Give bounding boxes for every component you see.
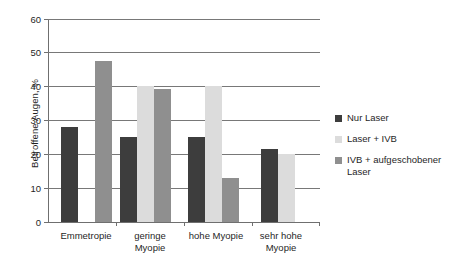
y-tick-mark-0: [44, 222, 48, 223]
gridline-60: 60: [48, 19, 320, 20]
x-category-label-geringe-myopie-line2: Myopie: [106, 242, 194, 254]
y-tick-mark-50: [44, 52, 48, 53]
y-tick-label-60: 60: [30, 14, 41, 25]
y-tick-label-30: 30: [30, 115, 41, 126]
y-tick-mark-40: [44, 86, 48, 87]
y-tick-mark-30: [44, 120, 48, 121]
gridline-40: 40: [48, 86, 320, 87]
y-axis-line: [48, 19, 49, 223]
gridline-30: 30: [48, 120, 320, 121]
x-tick-3: [252, 222, 253, 226]
y-tick-label-0: 0: [36, 217, 41, 228]
bar-hohe-myopie-laser-ivb: [205, 86, 222, 222]
legend-label-ivb-aufgeschobener-laser-line1: IVB + aufgeschobener: [347, 154, 441, 165]
bar-emmetropie-ivb-aufgeschobener-laser: [95, 61, 112, 223]
bar-hohe-myopie-ivb-aufgeschobener-laser: [222, 178, 239, 222]
bar-geringe-myopie-laser-ivb: [137, 86, 154, 222]
legend-swatch-laser-ivb-icon: [335, 136, 342, 143]
x-category-label-sehr-hohe-myopie-line1: sehr hohe: [236, 230, 326, 242]
bar-chart: Betroffene Augen, % 0 10 20 30 40 50: [0, 0, 456, 277]
legend-item-nur-laser: Nur Laser: [335, 112, 455, 124]
x-tick-4: [319, 222, 320, 226]
gridline-50: 50: [48, 52, 320, 53]
legend-item-laser-ivb: Laser + IVB: [335, 133, 455, 145]
plot-area: 0 10 20 30 40 50 60: [48, 19, 320, 223]
bar-emmetropie-nur-laser: [61, 127, 78, 222]
legend-swatch-ivb-aufgeschobener-laser-icon: [335, 157, 342, 164]
x-tick-2: [184, 222, 185, 226]
bar-hohe-myopie-nur-laser: [188, 137, 205, 222]
x-category-label-sehr-hohe-myopie: sehr hohe Myopie: [236, 230, 326, 253]
x-tick-1: [116, 222, 117, 226]
legend-label-laser-ivb-line1: Laser + IVB: [347, 133, 397, 144]
bar-geringe-myopie-ivb-aufgeschobener-laser: [154, 89, 171, 222]
legend-label-ivb-aufgeschobener-laser-line2: Laser: [347, 166, 371, 177]
bar-sehr-hohe-myopie-nur-laser: [261, 149, 278, 222]
legend: Nur Laser Laser + IVB IVB + aufgeschoben…: [335, 112, 455, 187]
y-tick-label-10: 10: [30, 183, 41, 194]
legend-label-nur-laser-line1: Nur Laser: [347, 112, 389, 123]
legend-label-nur-laser: Nur Laser: [347, 112, 389, 124]
bar-sehr-hohe-myopie-laser-ivb: [278, 154, 295, 222]
legend-label-ivb-aufgeschobener-laser: IVB + aufgeschobener Laser: [347, 154, 441, 177]
legend-swatch-nur-laser-icon: [335, 115, 342, 122]
x-category-label-sehr-hohe-myopie-line2: Myopie: [236, 242, 326, 254]
legend-label-laser-ivb: Laser + IVB: [347, 133, 397, 145]
y-tick-mark-60: [44, 19, 48, 20]
legend-item-ivb-aufgeschobener-laser: IVB + aufgeschobener Laser: [335, 154, 455, 177]
y-tick-label-20: 20: [30, 149, 41, 160]
y-tick-label-40: 40: [30, 81, 41, 92]
y-tick-label-50: 50: [30, 47, 41, 58]
y-tick-mark-20: [44, 154, 48, 155]
y-tick-mark-10: [44, 188, 48, 189]
bar-geringe-myopie-nur-laser: [120, 137, 137, 222]
